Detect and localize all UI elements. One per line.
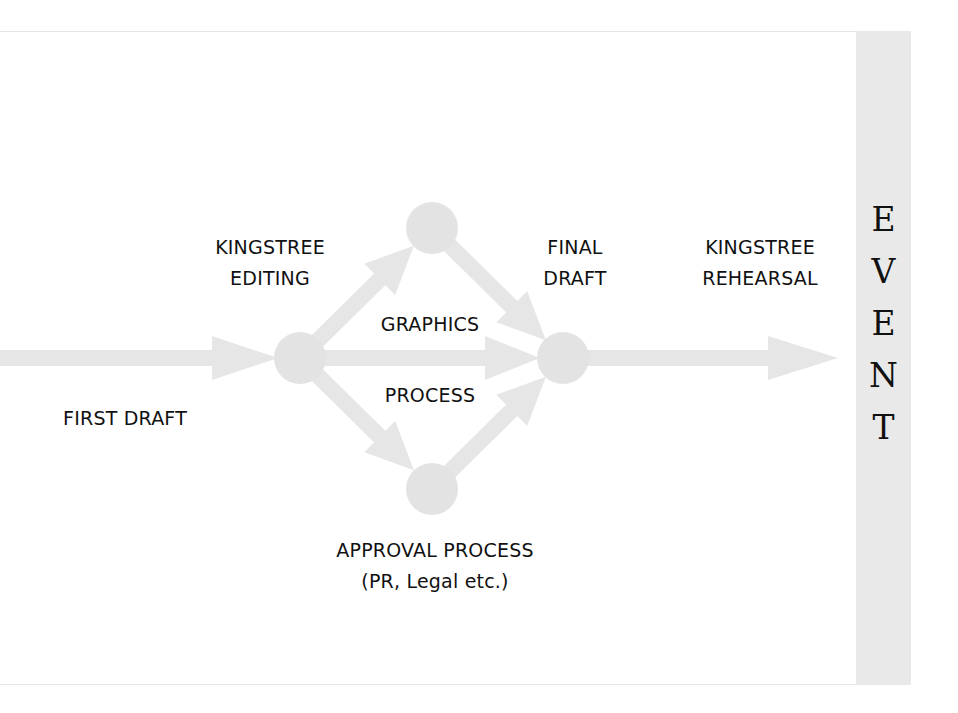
event-letter: V [856, 246, 911, 298]
label-first-draft: FIRST DRAFT [50, 403, 200, 434]
node-final [537, 332, 589, 384]
label-process: PROCESS [360, 380, 500, 411]
event-label: E V E N T [856, 194, 911, 454]
flow-diagram [0, 0, 958, 713]
arrow-graphics [300, 336, 540, 380]
node-approval [406, 463, 458, 515]
event-letter: N [856, 350, 911, 402]
event-bar: E V E N T [856, 31, 911, 685]
event-letter: E [856, 298, 911, 350]
arrow-rehearsal [563, 336, 838, 380]
label-kingstree-editing: KINGSTREE EDITING [195, 232, 345, 294]
label-kingstree-rehearsal: KINGSTREE REHEARSAL [680, 232, 840, 294]
node-editing [406, 202, 458, 254]
label-graphics: GRAPHICS [360, 309, 500, 340]
label-final-draft: FINAL DRAFT [520, 232, 630, 294]
node-start [274, 332, 326, 384]
arrow-first-draft [0, 336, 278, 380]
event-letter: T [856, 402, 911, 454]
event-letter: E [856, 194, 911, 246]
label-approval-process: APPROVAL PROCESS (PR, Legal etc.) [300, 535, 570, 597]
